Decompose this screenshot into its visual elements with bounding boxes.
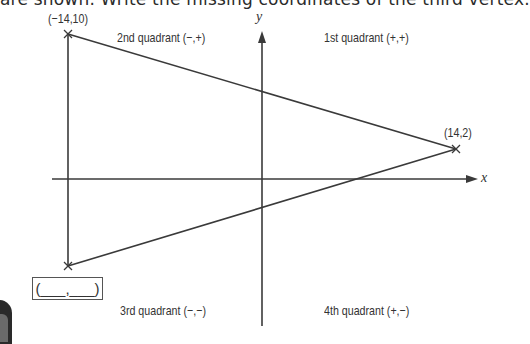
y-axis-arrow-icon: [258, 31, 266, 43]
vertex-label-right: (14,2): [444, 125, 472, 140]
answer-box-text: (___,___): [35, 280, 99, 297]
x-axis-label: x: [481, 170, 487, 186]
quadrant-label-fourth: 4th quadrant (+,−): [324, 303, 409, 318]
answer-box[interactable]: (___,___): [32, 277, 103, 300]
vertex-label-top-left: (−14,10): [48, 11, 88, 26]
y-axis-label: y: [256, 9, 262, 25]
avatar-thumbnail: [0, 300, 12, 344]
quadrant-label-second: 2nd quadrant (−,+): [117, 30, 205, 45]
x-axis-arrow-icon: [466, 175, 478, 183]
quadrant-label-third: 3rd quadrant (−,−): [120, 303, 206, 318]
quadrant-label-first: 1st quadrant (+,+): [324, 30, 409, 45]
